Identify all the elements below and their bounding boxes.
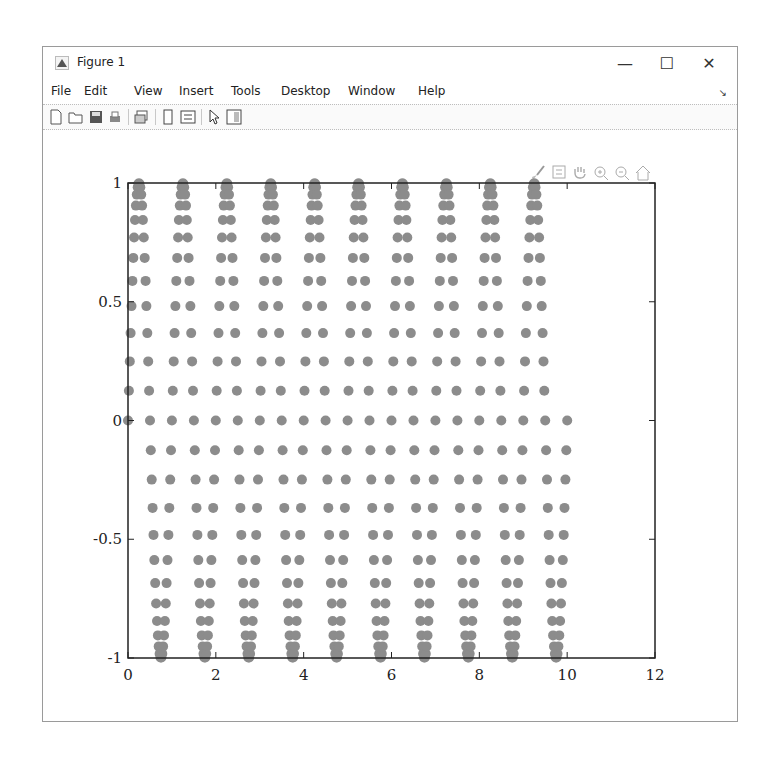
- window-title: Figure 1: [77, 55, 125, 69]
- figure-window: Figure 1 — ☐ ✕ File Edit View Insert Too…: [42, 46, 738, 722]
- close-button[interactable]: ✕: [689, 51, 729, 75]
- hide-plot-tools-icon[interactable]: [159, 108, 177, 126]
- pan-hand-icon[interactable]: [571, 164, 589, 182]
- maximize-button[interactable]: ☐: [647, 51, 687, 75]
- restore-view-home-icon[interactable]: [634, 164, 652, 182]
- menu-edit[interactable]: Edit: [84, 84, 107, 98]
- axes-toolbar: [529, 164, 652, 182]
- menu-view[interactable]: View: [134, 84, 162, 98]
- dock-figure-icon[interactable]: ↘: [719, 87, 727, 98]
- brush-icon[interactable]: [529, 164, 547, 182]
- title-bar[interactable]: Figure 1 — ☐ ✕: [43, 47, 737, 79]
- menu-tools[interactable]: Tools: [231, 84, 261, 98]
- save-icon[interactable]: [87, 108, 105, 126]
- open-file-icon[interactable]: [67, 108, 85, 126]
- property-inspector-icon[interactable]: [225, 108, 243, 126]
- link-plot-icon[interactable]: [133, 108, 151, 126]
- matlab-figure-icon: [55, 56, 69, 70]
- figure-toolbar: [43, 104, 737, 130]
- toolbar-separator: [201, 109, 202, 125]
- zoom-out-icon[interactable]: [613, 164, 631, 182]
- toolbar-separator: [155, 109, 156, 125]
- minimize-button[interactable]: —: [605, 51, 645, 75]
- zoom-in-icon[interactable]: [592, 164, 610, 182]
- new-figure-icon[interactable]: [47, 108, 65, 126]
- edit-plot-arrow-icon[interactable]: [205, 108, 223, 126]
- menu-desktop[interactable]: Desktop: [281, 84, 331, 98]
- toolbar-separator: [128, 109, 129, 125]
- menu-file[interactable]: File: [51, 84, 71, 98]
- menu-bar: File Edit View Insert Tools Desktop Wind…: [43, 81, 737, 103]
- menu-window[interactable]: Window: [348, 84, 395, 98]
- menu-help[interactable]: Help: [418, 84, 445, 98]
- menu-insert[interactable]: Insert: [179, 84, 213, 98]
- data-tips-icon[interactable]: [550, 164, 568, 182]
- show-plot-tools-icon[interactable]: [179, 108, 197, 126]
- print-icon[interactable]: [106, 108, 124, 126]
